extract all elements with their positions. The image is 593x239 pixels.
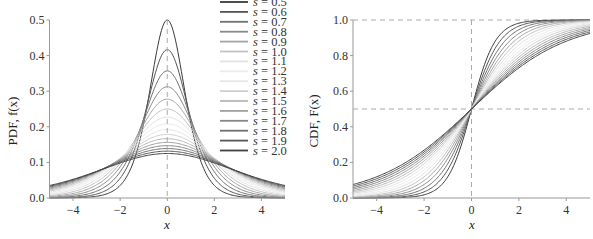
y-tick-label: 0.0 <box>333 191 348 205</box>
y-tick-label: 0.3 <box>30 84 45 98</box>
legend-label: s = 2.0 <box>253 144 287 158</box>
y-tick-label: 0.1 <box>30 155 45 169</box>
cdf-xlabel: x <box>468 217 475 232</box>
x-tick-label: 4 <box>258 203 264 217</box>
figure: −4−20240.00.10.20.30.40.5 PDF, f(x) x s … <box>0 0 593 239</box>
x-tick-label: 0 <box>469 203 475 217</box>
x-tick-label: 2 <box>516 203 522 217</box>
y-tick-label: 0.5 <box>30 13 45 27</box>
cdf-chart: −4−20240.00.20.40.60.81.0 CDF, F(x) x <box>306 13 590 232</box>
pdf-xlabel: x <box>163 217 170 232</box>
x-tick-label: −2 <box>114 203 127 217</box>
x-tick-label: 2 <box>211 203 217 217</box>
x-tick-label: −2 <box>418 203 431 217</box>
pdf-chart: −4−20240.00.10.20.30.40.5 PDF, f(x) x s … <box>5 0 288 232</box>
y-tick-label: 0.8 <box>333 49 348 63</box>
x-tick-label: −4 <box>370 203 383 217</box>
cdf-ylabel: CDF, F(x) <box>306 94 321 147</box>
y-tick-label: 0.2 <box>333 155 348 169</box>
y-tick-label: 0.6 <box>333 84 348 98</box>
pdf-ylabel: PDF, f(x) <box>5 97 20 146</box>
x-tick-label: 4 <box>563 203 569 217</box>
x-tick-label: 0 <box>164 203 170 217</box>
legend: s = 0.5s = 0.6s = 0.7s = 0.8s = 0.9s = 1… <box>220 0 288 158</box>
pdf-curves <box>50 20 286 198</box>
x-tick-label: −4 <box>67 203 80 217</box>
y-tick-label: 0.4 <box>30 49 45 63</box>
y-tick-label: 0.2 <box>30 120 45 134</box>
y-tick-label: 0.0 <box>30 191 45 205</box>
y-tick-label: 0.4 <box>333 120 348 134</box>
y-tick-label: 1.0 <box>333 13 348 27</box>
